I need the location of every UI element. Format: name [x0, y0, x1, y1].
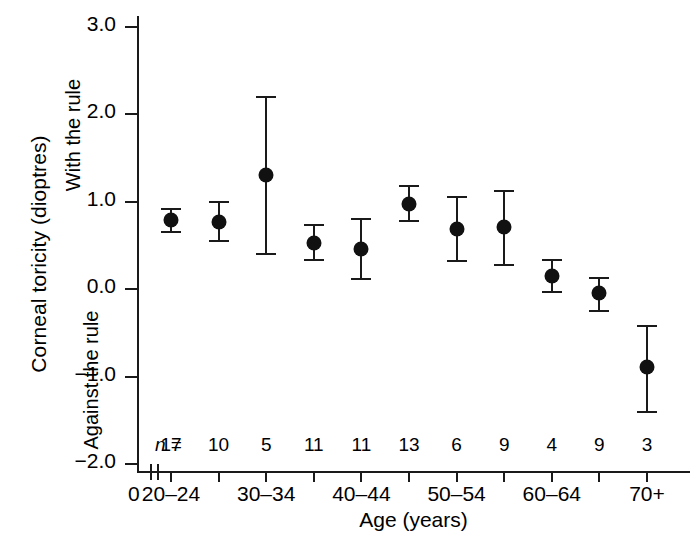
n-value: 6 — [451, 434, 462, 456]
error-bar-cap-lower — [637, 411, 657, 413]
error-bar-cap-upper — [589, 277, 609, 279]
error-bar-cap-upper — [494, 190, 514, 192]
error-bar-cap-lower — [161, 231, 181, 233]
n-value: 9 — [499, 434, 510, 456]
x-tick-mark — [313, 471, 315, 482]
data-point-marker — [211, 215, 226, 230]
data-point-marker — [592, 286, 607, 301]
y-tick-label: 0.0 — [50, 274, 116, 298]
y-tick-label: −2.0 — [50, 449, 116, 473]
n-value: 17 — [160, 434, 181, 456]
x-tick-mark — [456, 471, 458, 482]
data-point-marker — [449, 222, 464, 237]
error-bar-cap-upper — [447, 196, 467, 198]
error-bar-cap-upper — [209, 201, 229, 203]
x-tick-mark — [598, 471, 600, 482]
data-point-marker — [306, 235, 321, 250]
error-bar-cap-lower — [589, 310, 609, 312]
x-tick-label: 50–54 — [427, 482, 485, 506]
y-tick-mark — [125, 376, 138, 378]
x-tick-mark — [551, 471, 553, 482]
error-bar-cap-upper — [351, 218, 371, 220]
error-bar-cap-lower — [209, 240, 229, 242]
error-bar-cap-upper — [161, 208, 181, 210]
y-tick-mark — [125, 463, 138, 465]
y-tick-label: 1.0 — [50, 187, 116, 211]
y-tick-mark — [125, 26, 138, 28]
x-tick-mark — [360, 471, 362, 482]
x-tick-mark — [265, 471, 267, 482]
x-origin-label: 0 — [128, 482, 140, 506]
x-tick-mark — [170, 471, 172, 482]
data-point-marker — [164, 212, 179, 227]
error-bar-cap-lower — [304, 259, 324, 261]
n-value: 3 — [642, 434, 653, 456]
n-value: 5 — [261, 434, 272, 456]
error-bar-cap-lower — [494, 264, 514, 266]
x-axis-title: Age (years) — [137, 508, 690, 532]
y-tick-label: 3.0 — [50, 12, 116, 36]
axis-break-mark-1 — [150, 464, 152, 480]
x-axis-line — [137, 471, 690, 473]
n-value: 13 — [398, 434, 419, 456]
x-tick-label: 40–44 — [332, 482, 390, 506]
x-tick-label: 70+ — [629, 482, 665, 506]
error-bar-cap-lower — [399, 220, 419, 222]
x-tick-label: 20–24 — [142, 482, 200, 506]
y-axis-title: Corneal toricity (dioptres) — [27, 54, 51, 454]
n-value: 10 — [208, 434, 229, 456]
error-bar-cap-lower — [351, 278, 371, 280]
data-point-marker — [259, 168, 274, 183]
y-axis-line — [137, 16, 139, 473]
x-tick-mark — [218, 471, 220, 482]
y-tick-label: 2.0 — [50, 99, 116, 123]
y-tick-mark — [125, 113, 138, 115]
error-bar-cap-lower — [447, 260, 467, 262]
data-point-marker — [640, 359, 655, 374]
error-bar-cap-upper — [399, 185, 419, 187]
x-tick-mark — [646, 471, 648, 482]
n-value: 11 — [352, 434, 372, 456]
error-bar-cap-upper — [637, 325, 657, 327]
y-tick-mark — [125, 288, 138, 290]
error-bar-cap-lower — [256, 253, 276, 255]
x-tick-mark — [503, 471, 505, 482]
error-bar-cap-upper — [304, 224, 324, 226]
y-tick-label-group: 3.02.01.00.0−1.0−2.0 — [50, 0, 116, 543]
x-tick-label: 60–64 — [523, 482, 581, 506]
data-point-marker — [497, 219, 512, 234]
x-tick-mark — [408, 471, 410, 482]
data-point-marker — [354, 241, 369, 256]
error-bar-cap-upper — [256, 96, 276, 98]
axis-break-mark-2 — [157, 464, 159, 480]
error-bar-cap-upper — [542, 259, 562, 261]
n-value: 4 — [547, 434, 558, 456]
n-value: 9 — [594, 434, 605, 456]
data-point-marker — [402, 197, 417, 212]
x-tick-label: 30–34 — [237, 482, 295, 506]
corneal-toricity-chart: Corneal toricity (dioptres) With the rul… — [0, 0, 694, 543]
y-tick-label: −1.0 — [50, 362, 116, 386]
n-value: 11 — [304, 434, 324, 456]
y-tick-mark — [125, 201, 138, 203]
error-bar-cap-lower — [542, 291, 562, 293]
data-point-marker — [544, 268, 559, 283]
